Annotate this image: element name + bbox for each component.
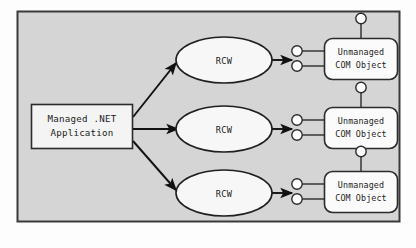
rcw-label-1: RCW (216, 56, 233, 66)
com-object-label-3-line2: COM Object (335, 193, 386, 203)
managed-app-label-line2: Application (50, 127, 113, 138)
com-object-label-2-line2: COM Object (335, 129, 386, 139)
interface-lollipop-top-1[interactable] (356, 13, 366, 23)
diagram-canvas: Managed .NET Application RCW RCW RCW (0, 0, 416, 248)
com-object-label-1-line1: Unmanaged (338, 47, 384, 57)
interface-lollipop-top-2[interactable] (356, 82, 366, 92)
interface-lollipop-left-1b[interactable] (292, 61, 302, 71)
interface-lollipop-left-1a[interactable] (292, 46, 302, 56)
rcw-label-3: RCW (216, 189, 233, 199)
com-object-label-3-line1: Unmanaged (338, 180, 384, 190)
rcw-node-3[interactable]: RCW (176, 170, 272, 216)
rcw-label-2: RCW (216, 125, 233, 135)
interface-lollipop-left-2a[interactable] (292, 115, 302, 125)
com-interop-diagram: Managed .NET Application RCW RCW RCW (0, 0, 416, 248)
rcw-node-1[interactable]: RCW (176, 37, 272, 83)
managed-app-label-line1: Managed .NET (48, 113, 117, 124)
com-object-label-2-line1: Unmanaged (338, 116, 384, 126)
com-object-box-2 (325, 108, 398, 149)
interface-lollipop-top-3[interactable] (356, 146, 366, 156)
interface-lollipop-left-3a[interactable] (292, 179, 302, 189)
com-object-label-1-line2: COM Object (335, 60, 386, 70)
managed-app-node[interactable]: Managed .NET Application (32, 105, 133, 149)
interface-lollipop-left-2b[interactable] (292, 130, 302, 140)
com-object-box-1 (325, 39, 398, 80)
rcw-node-2[interactable]: RCW (176, 106, 272, 152)
interface-lollipop-left-3b[interactable] (292, 194, 302, 204)
com-object-box-3 (325, 172, 398, 213)
